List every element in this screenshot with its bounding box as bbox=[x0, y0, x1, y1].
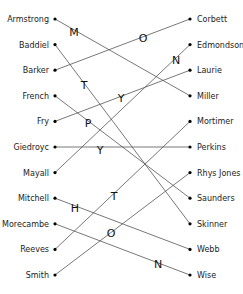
right-column: CorbettEdmondsonLaurieMillerMortimerPerk… bbox=[188, 15, 243, 280]
right-dot bbox=[188, 145, 191, 148]
line-letter: O bbox=[139, 32, 148, 45]
line-letter: N bbox=[154, 258, 162, 271]
left-name: Smith bbox=[26, 271, 49, 280]
connection-lines bbox=[55, 19, 190, 275]
right-dot bbox=[188, 17, 191, 20]
left-name: Giedroyc bbox=[13, 143, 49, 152]
line-letter: Y bbox=[117, 92, 125, 105]
connection-line bbox=[55, 45, 190, 224]
left-name: Baddiel bbox=[19, 41, 49, 50]
line-letter: M bbox=[69, 26, 79, 39]
matching-diagram: ArmstrongBaddielBarkerFrenchFryGiedroycM… bbox=[0, 0, 243, 294]
right-dot bbox=[188, 248, 191, 251]
right-dot bbox=[188, 273, 191, 276]
right-dot bbox=[188, 120, 191, 123]
connection-line bbox=[55, 173, 190, 275]
left-column: ArmstrongBaddielBarkerFrenchFryGiedroycM… bbox=[2, 15, 57, 280]
right-name: Saunders bbox=[197, 194, 235, 203]
connection-line bbox=[55, 224, 190, 275]
right-name: Perkins bbox=[197, 143, 226, 152]
connection-line bbox=[55, 45, 190, 173]
left-dot bbox=[53, 248, 56, 251]
right-dot bbox=[188, 43, 191, 46]
right-name: Miller bbox=[197, 92, 219, 101]
left-name: Mitchell bbox=[18, 194, 49, 203]
left-dot bbox=[53, 120, 56, 123]
right-name: Edmondson bbox=[197, 41, 243, 50]
left-dot bbox=[53, 145, 56, 148]
right-name: Wise bbox=[197, 271, 216, 280]
left-name: Armstrong bbox=[7, 15, 49, 24]
left-name: Morecambe bbox=[2, 220, 49, 229]
right-name: Skinner bbox=[197, 220, 228, 229]
right-name: Mortimer bbox=[197, 117, 234, 126]
left-dot bbox=[53, 171, 56, 174]
left-name: Reeves bbox=[20, 245, 49, 254]
left-name: French bbox=[22, 92, 49, 101]
left-dot bbox=[53, 43, 56, 46]
left-dot bbox=[53, 17, 56, 20]
right-dot bbox=[188, 222, 191, 225]
right-dot bbox=[188, 171, 191, 174]
left-name: Fry bbox=[37, 117, 49, 126]
line-letter: N bbox=[172, 54, 180, 67]
line-letter: T bbox=[80, 79, 88, 92]
left-dot bbox=[53, 69, 56, 72]
left-dot bbox=[53, 94, 56, 97]
right-dot bbox=[188, 94, 191, 97]
line-letter: T bbox=[110, 190, 118, 203]
right-name: Rhys Jones bbox=[197, 169, 241, 178]
left-dot bbox=[53, 197, 56, 200]
right-name: Webb bbox=[197, 245, 220, 254]
line-letter: Y bbox=[96, 144, 104, 157]
left-name: Mayall bbox=[23, 169, 49, 178]
left-name: Barker bbox=[23, 66, 50, 75]
line-letter: O bbox=[107, 227, 116, 240]
right-dot bbox=[188, 69, 191, 72]
right-name: Laurie bbox=[197, 66, 222, 75]
line-letter: P bbox=[85, 117, 92, 130]
connection-line bbox=[55, 121, 190, 249]
right-name: Corbett bbox=[197, 15, 227, 24]
left-dot bbox=[53, 222, 56, 225]
right-dot bbox=[188, 197, 191, 200]
line-letter: H bbox=[71, 202, 79, 215]
left-dot bbox=[53, 273, 56, 276]
